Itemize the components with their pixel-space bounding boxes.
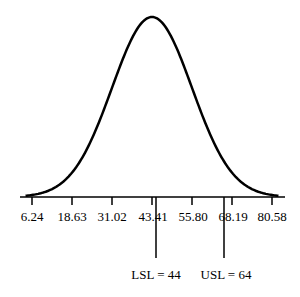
usl-label: USL = 64	[201, 267, 252, 282]
tick-label: 80.58	[257, 209, 286, 224]
tick-label: 68.19	[218, 209, 247, 224]
normal-distribution-chart: 6.24 18.63 31.02 43.41 55.80 68.19 80.58…	[0, 0, 300, 297]
tick-label: 55.80	[178, 209, 207, 224]
tick-label: 18.63	[57, 209, 86, 224]
normal-curve	[26, 17, 279, 196]
tick-label: 43.41	[138, 209, 167, 224]
tick-label: 6.24	[21, 209, 44, 224]
lsl-label: LSL = 44	[131, 267, 181, 282]
x-axis-ticks	[32, 197, 272, 205]
tick-label: 31.02	[97, 209, 126, 224]
x-axis-tick-labels: 6.24 18.63 31.02 43.41 55.80 68.19 80.58	[21, 209, 287, 224]
